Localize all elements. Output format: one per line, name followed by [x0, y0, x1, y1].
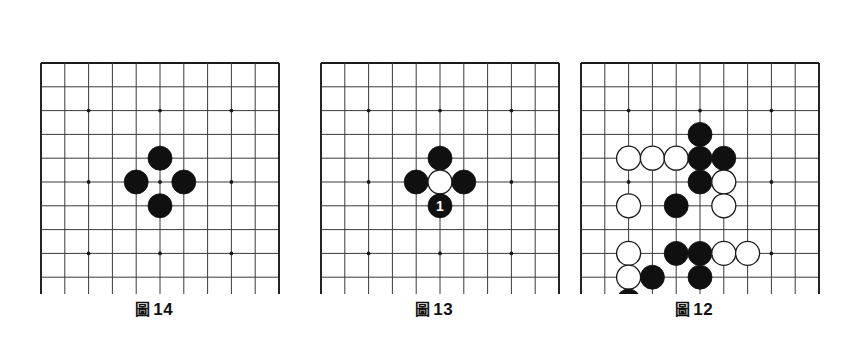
star-point	[230, 109, 234, 113]
go-board-13[interactable]: 1	[304, 46, 564, 294]
figure-caption-number: 12	[693, 300, 713, 319]
go-grid	[24, 46, 284, 294]
black-stone[interactable]	[712, 146, 736, 170]
star-point	[158, 252, 162, 256]
star-point	[510, 109, 514, 113]
black-stone[interactable]	[148, 194, 172, 218]
black-stone[interactable]	[452, 170, 476, 194]
figure-caption-number: 13	[433, 300, 453, 319]
star-point	[158, 109, 162, 113]
star-point	[510, 180, 514, 184]
stones	[617, 122, 760, 294]
star-point	[770, 180, 774, 184]
white-stone[interactable]	[664, 146, 688, 170]
star-point	[367, 180, 371, 184]
go-figure-14: 圖14	[24, 46, 284, 336]
star-point	[438, 252, 442, 256]
star-point	[367, 109, 371, 113]
go-board-12[interactable]	[564, 46, 824, 294]
white-stone[interactable]	[617, 241, 641, 265]
white-stone[interactable]	[712, 194, 736, 218]
star-point	[87, 109, 91, 113]
white-stone[interactable]	[712, 241, 736, 265]
grid-lines	[41, 63, 279, 294]
black-stone[interactable]	[688, 122, 712, 146]
figure-caption-kanji: 圖	[135, 301, 151, 319]
star-point	[367, 252, 371, 256]
white-stone[interactable]	[640, 146, 664, 170]
go-diagram-set: 圖141圖13圖12	[0, 0, 847, 363]
star-point	[230, 252, 234, 256]
figure-caption-kanji: 圖	[675, 301, 691, 319]
star-point	[158, 180, 162, 184]
black-stone[interactable]	[124, 170, 148, 194]
star-point	[87, 252, 91, 256]
go-figure-13: 1圖13	[304, 46, 564, 336]
white-stone[interactable]	[712, 170, 736, 194]
black-stone[interactable]	[617, 289, 641, 294]
white-stone[interactable]	[736, 241, 760, 265]
black-stone[interactable]	[664, 241, 688, 265]
white-stone[interactable]	[617, 265, 641, 289]
star-point	[627, 109, 631, 113]
black-stone[interactable]	[172, 170, 196, 194]
white-stone[interactable]	[617, 146, 641, 170]
star-point	[87, 180, 91, 184]
figure-caption-kanji: 圖	[415, 301, 431, 319]
stone-move-number: 1	[436, 198, 444, 214]
star-point	[438, 109, 442, 113]
go-grid	[564, 46, 824, 294]
go-grid: 1	[304, 46, 564, 294]
black-stone[interactable]	[428, 146, 452, 170]
star-point	[230, 180, 234, 184]
star-point	[770, 109, 774, 113]
figure-caption: 圖14	[24, 298, 284, 322]
white-stone[interactable]	[617, 194, 641, 218]
black-stone[interactable]	[404, 170, 428, 194]
star-point	[698, 109, 702, 113]
star-point	[510, 252, 514, 256]
black-stone[interactable]	[640, 265, 664, 289]
go-figure-12: 圖12	[564, 46, 824, 336]
black-stone[interactable]	[688, 170, 712, 194]
figure-caption: 圖13	[304, 298, 564, 322]
stones: 1	[404, 146, 476, 218]
black-stone[interactable]	[688, 241, 712, 265]
black-stone[interactable]	[664, 194, 688, 218]
star-point	[627, 180, 631, 184]
figure-caption-number: 14	[153, 300, 173, 319]
go-board-14[interactable]	[24, 46, 284, 294]
black-stone[interactable]	[148, 146, 172, 170]
white-stone[interactable]	[428, 170, 452, 194]
black-stone[interactable]	[688, 146, 712, 170]
star-point	[770, 252, 774, 256]
black-stone[interactable]	[688, 265, 712, 289]
figure-caption: 圖12	[564, 298, 824, 322]
